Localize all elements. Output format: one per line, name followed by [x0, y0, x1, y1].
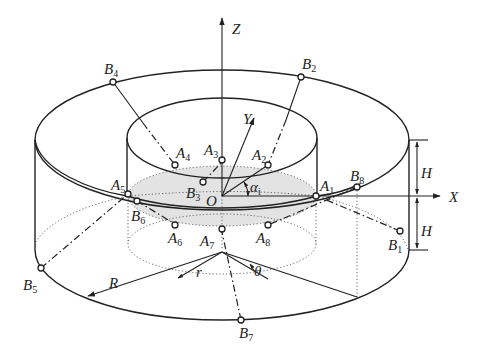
label-b4: B4 — [104, 61, 118, 79]
label-a2: A2 — [251, 147, 266, 165]
leg-b2-a2 — [268, 120, 286, 165]
radius-theta-outer — [222, 252, 357, 297]
point-a3 — [219, 157, 225, 163]
leg-b7-a7 — [222, 232, 241, 320]
outer-mid-dotted-arc — [36, 196, 128, 242]
point-b6 — [134, 198, 140, 204]
point-a7 — [219, 226, 225, 232]
label-b7: B7 — [239, 325, 253, 343]
point-a8 — [265, 222, 271, 228]
z-axis-label: Z — [232, 21, 241, 37]
point-b3 — [200, 179, 206, 185]
point-a6 — [172, 222, 178, 228]
leg-b1-a1 — [317, 196, 400, 231]
height-lower-label: H — [420, 223, 433, 239]
label-b1: B1 — [388, 237, 402, 255]
x-axis-label: X — [448, 189, 459, 205]
label-a3: A3 — [203, 142, 218, 160]
leg-b5-a5 — [41, 194, 128, 268]
label-a8: A8 — [255, 230, 270, 248]
label-b2: B2 — [302, 56, 316, 74]
label-a4: A4 — [175, 145, 190, 163]
height-upper-label: H — [420, 165, 433, 181]
leg-b4-a4 — [143, 123, 175, 165]
point-b4 — [110, 79, 116, 85]
point-b5 — [38, 265, 44, 271]
origin-label: O — [206, 193, 217, 209]
point-b1 — [397, 228, 403, 234]
outer-radius-label: R — [108, 275, 118, 291]
point-b2 — [298, 74, 304, 80]
leg-b4-a4-solid — [113, 82, 143, 123]
point-a5 — [125, 191, 131, 197]
theta-label: θ — [254, 263, 262, 279]
outer-bottom-arc — [35, 250, 409, 320]
label-b8: B8 — [350, 168, 364, 186]
point-b7 — [238, 317, 244, 323]
label-a1: A1 — [319, 178, 334, 196]
mechanism-diagram: Z X Y O R r H H θ αi B4 B2 A4 A3 A2 B3 A… — [0, 0, 482, 355]
label-a7: A7 — [199, 233, 214, 251]
label-b5: B5 — [23, 277, 37, 295]
point-a1 — [313, 193, 319, 199]
label-a5: A5 — [110, 177, 125, 195]
inner-radius-label: r — [196, 264, 202, 280]
point-a4 — [172, 162, 178, 168]
label-a6: A6 — [167, 230, 182, 248]
